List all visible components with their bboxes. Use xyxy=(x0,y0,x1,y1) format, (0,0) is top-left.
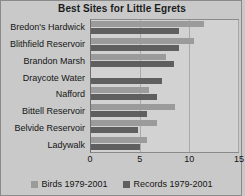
bar-row xyxy=(91,86,238,103)
legend-swatch-birds xyxy=(31,181,38,188)
legend-label-records: Records 1979-2001 xyxy=(133,179,212,189)
tick-label: 5 xyxy=(137,154,142,164)
bar-birds xyxy=(91,137,147,143)
legend-item-records: Records 1979-2001 xyxy=(123,179,212,189)
category-label: Blithfield Reservoir xyxy=(3,36,88,53)
legend-label-birds: Birds 1979-2001 xyxy=(41,179,107,189)
bar-row xyxy=(91,70,238,87)
category-label: Bredon's Hardwick xyxy=(3,19,88,36)
bar-records xyxy=(91,111,147,117)
tick-label: 0 xyxy=(87,154,92,164)
gridline xyxy=(238,20,239,152)
category-label: Draycote Water xyxy=(3,69,88,86)
bar-records xyxy=(91,94,157,100)
legend-swatch-records xyxy=(123,181,130,188)
bar-records xyxy=(91,45,179,51)
bar-records xyxy=(91,61,174,67)
chart-container: Best Sites for Little Egrets Bredon's Ha… xyxy=(0,0,242,196)
bar-records xyxy=(91,28,179,34)
chart-title: Best Sites for Little Egrets xyxy=(1,3,242,14)
bar-records xyxy=(91,127,138,133)
bar-row xyxy=(91,37,238,54)
bar-row xyxy=(91,53,238,70)
tick-label: 10 xyxy=(184,154,194,164)
bar-birds xyxy=(91,120,157,126)
bar-birds xyxy=(91,104,175,110)
bar-birds xyxy=(91,54,166,60)
plot-area xyxy=(90,19,239,153)
tick-label: 15 xyxy=(234,154,242,164)
legend-item-birds: Birds 1979-2001 xyxy=(31,179,107,189)
category-label: Nafford xyxy=(3,86,88,103)
category-axis-labels: Bredon's Hardwick Blithfield Reservoir B… xyxy=(3,19,88,153)
bar-row xyxy=(91,119,238,136)
value-axis-labels: 051015 xyxy=(90,154,239,168)
legend: Birds 1979-2001 Records 1979-2001 xyxy=(1,179,242,189)
category-label: Bittell Reservoir xyxy=(3,103,88,120)
bar-records xyxy=(91,144,140,150)
bar-birds xyxy=(91,87,149,93)
category-label: Belvide Reservoir xyxy=(3,120,88,137)
bar-birds xyxy=(91,38,194,44)
bar-rows xyxy=(91,20,238,152)
bar-row xyxy=(91,136,238,153)
bar-row xyxy=(91,20,238,37)
bar-birds xyxy=(91,21,204,27)
category-label: Ladywalk xyxy=(3,136,88,153)
category-label: Brandon Marsh xyxy=(3,53,88,70)
bar-records xyxy=(91,78,162,84)
bar-row xyxy=(91,103,238,120)
